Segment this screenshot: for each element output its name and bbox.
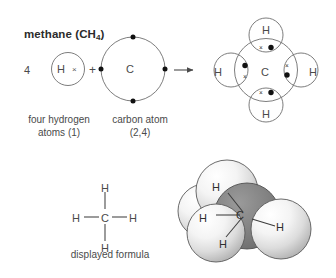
shared-pair-right: × [284, 62, 289, 78]
carbon-electron-dot-right [163, 67, 168, 72]
caption-carbon: carbon atom (2,4) [104, 113, 176, 139]
page-title: methane (CH4) [24, 28, 105, 40]
space-filling-model [178, 160, 311, 262]
methane-hydrogen-label-top: H [262, 24, 270, 36]
title-text: methane (CH [24, 28, 96, 40]
methane-hydrogen-label-right: H [309, 66, 317, 78]
displayed-formula-h-top: H [101, 182, 109, 194]
svg-text:×: × [285, 62, 289, 69]
shared-pair-top: × [259, 44, 274, 51]
methane-hydrogen-label-left: H [214, 66, 222, 78]
svg-text:×: × [243, 73, 247, 80]
caption-carbon-line2: (2,4) [104, 126, 176, 139]
carbon-electron-dot-top [131, 35, 136, 40]
carbon-electron-dot-bottom [131, 99, 136, 104]
caption-hydrogen: four hydrogen atoms (1) [16, 113, 102, 139]
shared-pair-bottom: × [259, 89, 274, 96]
caption-carbon-line1: carbon atom [104, 113, 176, 126]
caption-displayed-formula: displayed formula [50, 249, 170, 260]
displayed-formula-h-left: H [72, 212, 80, 224]
plus-sign: + [89, 63, 96, 77]
svg-text:×: × [259, 44, 263, 51]
title-close-paren: ) [101, 28, 105, 40]
carbon-electron-dot-left [99, 67, 104, 72]
hydrogen-electron-cross: × [72, 65, 77, 74]
hydrogen-symbol: H [57, 63, 65, 75]
hydrogen-multiplier: 4 [24, 64, 30, 76]
caption-hydrogen-line2: atoms (1) [16, 126, 102, 139]
displayed-formula-carbon: C [101, 212, 109, 224]
carbon-symbol: C [126, 63, 134, 75]
sf-hydrogen-label-left: H [199, 212, 207, 224]
methane-bonding-diagram: × × × × [0, 0, 336, 278]
displayed-formula-h-right: H [129, 212, 137, 224]
svg-text:×: × [259, 89, 263, 96]
sf-hydrogen-label-top: H [212, 181, 220, 193]
title-subscript: 4 [96, 33, 101, 42]
sf-hydrogen-label-bottom-left: H [219, 238, 227, 250]
sf-hydrogen-label-right: H [276, 221, 284, 233]
sf-carbon-label: C [236, 209, 244, 221]
methane-carbon-label: C [261, 66, 269, 78]
caption-hydrogen-line1: four hydrogen [16, 113, 102, 126]
shared-pair-left: × [242, 63, 247, 80]
methane-hydrogen-label-bottom: H [262, 108, 270, 120]
